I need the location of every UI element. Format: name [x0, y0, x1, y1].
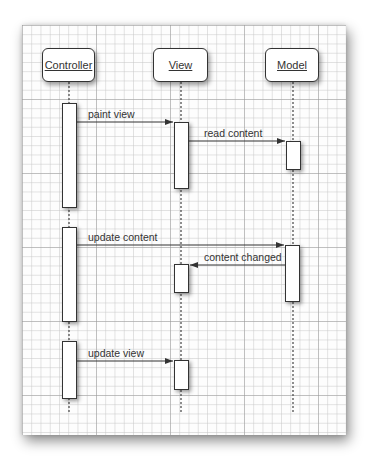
update-view-label: update view	[88, 347, 144, 359]
model-activation-1	[286, 141, 301, 170]
controller-activation-3	[62, 341, 77, 399]
controller-activation-1	[62, 103, 77, 208]
paint-view-label: paint view	[88, 108, 135, 120]
model-label: Model	[277, 59, 307, 71]
view-activation-3	[174, 360, 189, 390]
model-activation-2	[285, 245, 300, 302]
view-activation-1	[174, 122, 189, 189]
controller-object-box: Controller	[42, 48, 95, 82]
controller-activation-2	[62, 227, 77, 322]
model-object-box: Model	[265, 48, 319, 82]
controller-label: Controller	[45, 59, 93, 71]
view-object-box: View	[153, 48, 208, 82]
read-content-label: read content	[204, 127, 262, 139]
view-label: View	[169, 59, 193, 71]
update-content-label: update content	[88, 231, 157, 243]
view-activation-2	[174, 264, 189, 293]
content-changed-label: content changed	[204, 251, 282, 263]
